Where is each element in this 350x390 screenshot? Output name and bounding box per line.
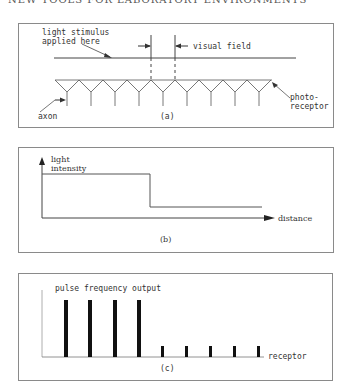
bar-7 (209, 346, 212, 357)
chart-title: pulse frequency output (55, 284, 161, 293)
bar-2 (88, 300, 92, 357)
bar-3 (113, 300, 117, 357)
bar-8 (233, 346, 236, 357)
panel-c-chart: pulse frequency output receptor (c) (0, 0, 350, 390)
bar-5 (161, 346, 164, 357)
bar-4 (137, 300, 141, 357)
bar-1 (64, 300, 68, 357)
panel-c-caption: (c) (160, 364, 174, 373)
bar-6 (185, 346, 188, 357)
bar-9 (257, 346, 260, 357)
x-axis-label: receptor (268, 352, 307, 361)
